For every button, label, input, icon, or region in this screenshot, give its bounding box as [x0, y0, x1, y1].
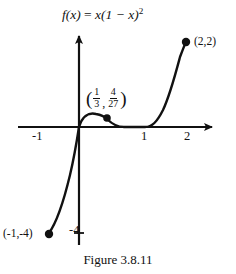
function-expression-label: f(x) = x(1 − x)2: [62, 8, 143, 22]
x-tick-label-2: 2: [184, 130, 190, 143]
endpoint-label-right: (2,2): [194, 36, 216, 48]
y-tick-label-neg4: -4: [69, 224, 79, 237]
endpoint-label-left: (-1,-4): [3, 228, 33, 240]
fraction-numerator: 1: [93, 87, 100, 99]
fraction-denominator: 3: [93, 99, 100, 110]
function-name: f(x): [62, 7, 81, 22]
x-tick-label-neg1: -1: [32, 130, 42, 143]
endpoint-dot-right: [182, 38, 190, 46]
figure-caption: Figure 3.8.11: [0, 252, 236, 268]
equals-sign: =: [81, 7, 95, 22]
local-max-label: ( 1 3 , 4 27 ): [86, 86, 127, 110]
fraction-one-third: 1 3: [92, 87, 101, 109]
fraction-denominator: 27: [107, 99, 119, 110]
close-paren: ): [120, 89, 126, 108]
function-exponent: 2: [139, 6, 144, 16]
fraction-four-twentysevenths: 4 27: [106, 87, 120, 109]
function-body: x(1 − x): [95, 7, 139, 22]
fraction-numerator: 4: [110, 87, 117, 99]
x-tick-label-1: 1: [141, 130, 147, 143]
function-curve: [49, 42, 186, 233]
figure-container: f(x) = x(1 − x)2 -1 1 2 -4 (2,2) (-1,-4)…: [0, 0, 236, 274]
local-max-dot: [103, 114, 111, 122]
endpoint-dot-left: [45, 230, 53, 238]
